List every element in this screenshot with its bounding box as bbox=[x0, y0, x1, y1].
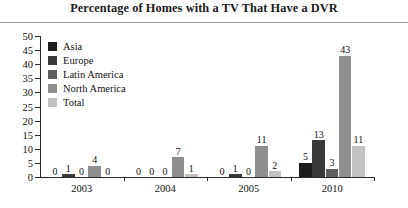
bar-value-label: 3 bbox=[329, 157, 334, 168]
y-axis-tick-label: 50 bbox=[23, 31, 34, 42]
legend-item: Europe bbox=[48, 53, 126, 67]
y-axis-tick bbox=[35, 177, 40, 178]
bar bbox=[269, 171, 282, 177]
x-axis-tick bbox=[291, 177, 292, 181]
page-title: Percentage of Homes with a TV That Have … bbox=[0, 1, 408, 16]
legend-item: Asia bbox=[48, 39, 126, 53]
legend: AsiaEuropeLatin AmericaNorth AmericaTota… bbox=[48, 39, 126, 109]
bar-value-label: 0 bbox=[136, 166, 141, 177]
y-axis-tick-label: 25 bbox=[23, 101, 34, 112]
bar bbox=[352, 146, 365, 177]
bar bbox=[312, 140, 325, 177]
y-axis-tick bbox=[35, 92, 40, 93]
y-axis-tick bbox=[35, 107, 40, 108]
legend-item: North America bbox=[48, 81, 126, 95]
bar-value-label: 13 bbox=[314, 129, 324, 140]
bar bbox=[62, 174, 75, 177]
bar-value-label: 2 bbox=[272, 160, 277, 171]
x-axis-group-label: 2010 bbox=[322, 183, 343, 194]
bar bbox=[88, 166, 101, 177]
y-axis-tick-label: 45 bbox=[23, 45, 34, 56]
x-axis-group-label: 2005 bbox=[238, 183, 259, 194]
bar-value-label: 7 bbox=[176, 146, 181, 157]
x-axis-group-label: 2004 bbox=[155, 183, 176, 194]
x-axis-tick bbox=[124, 177, 125, 181]
legend-item: Latin America bbox=[48, 67, 126, 81]
legend-label: Europe bbox=[63, 55, 93, 66]
x-axis-tick bbox=[374, 177, 375, 181]
bar bbox=[339, 56, 352, 177]
y-axis-tick bbox=[35, 36, 40, 37]
bar-value-label: 1 bbox=[189, 163, 194, 174]
y-axis-tick bbox=[35, 64, 40, 65]
bar-value-label: 0 bbox=[246, 166, 251, 177]
legend-label: Total bbox=[63, 97, 84, 108]
bar-value-label: 0 bbox=[162, 166, 167, 177]
legend-label: Latin America bbox=[63, 69, 123, 80]
bar-value-label: 4 bbox=[92, 154, 97, 165]
y-axis-tick-label: 35 bbox=[23, 73, 34, 84]
legend-swatch-icon bbox=[48, 98, 57, 107]
bar-value-label: 1 bbox=[66, 163, 71, 174]
y-axis-tick bbox=[35, 163, 40, 164]
title-divider bbox=[0, 22, 408, 23]
y-axis-tick-label: 10 bbox=[23, 143, 34, 154]
y-axis-tick-label: 20 bbox=[23, 115, 34, 126]
y-axis-tick-label: 40 bbox=[23, 59, 34, 70]
bar-value-label: 0 bbox=[53, 166, 58, 177]
x-axis-tick bbox=[207, 177, 208, 181]
y-axis-tick bbox=[35, 121, 40, 122]
bar-value-label: 11 bbox=[257, 134, 267, 145]
bar bbox=[172, 157, 185, 177]
bar-value-label: 0 bbox=[105, 166, 110, 177]
bar-value-label: 5 bbox=[303, 151, 308, 162]
legend-item: Total bbox=[48, 95, 126, 109]
legend-swatch-icon bbox=[48, 42, 57, 51]
bar-value-label: 11 bbox=[354, 134, 364, 145]
y-axis-tick-label: 30 bbox=[23, 87, 34, 98]
legend-swatch-icon bbox=[48, 56, 57, 65]
y-axis-tick bbox=[35, 135, 40, 136]
legend-label: Asia bbox=[63, 41, 82, 52]
y-axis-tick bbox=[35, 50, 40, 51]
legend-label: North America bbox=[63, 83, 126, 94]
legend-swatch-icon bbox=[48, 70, 57, 79]
bar-value-label: 0 bbox=[79, 166, 84, 177]
y-axis-tick-label: 5 bbox=[28, 157, 33, 168]
legend-swatch-icon bbox=[48, 84, 57, 93]
y-axis-tick-label: 0 bbox=[28, 172, 33, 183]
bar-value-label: 1 bbox=[233, 163, 238, 174]
bar bbox=[185, 174, 198, 177]
chart-figure: Percentage of Homes with a TV That Have … bbox=[0, 0, 408, 208]
y-axis-tick bbox=[35, 149, 40, 150]
bar bbox=[326, 169, 339, 177]
x-axis-group-label: 2003 bbox=[71, 183, 92, 194]
y-axis-tick bbox=[35, 78, 40, 79]
bar-value-label: 43 bbox=[340, 44, 350, 55]
bar bbox=[255, 146, 268, 177]
bar bbox=[229, 174, 242, 177]
bar bbox=[299, 163, 312, 177]
bar-value-label: 0 bbox=[220, 166, 225, 177]
y-axis-tick-label: 15 bbox=[23, 129, 34, 140]
bar-value-label: 0 bbox=[149, 166, 154, 177]
